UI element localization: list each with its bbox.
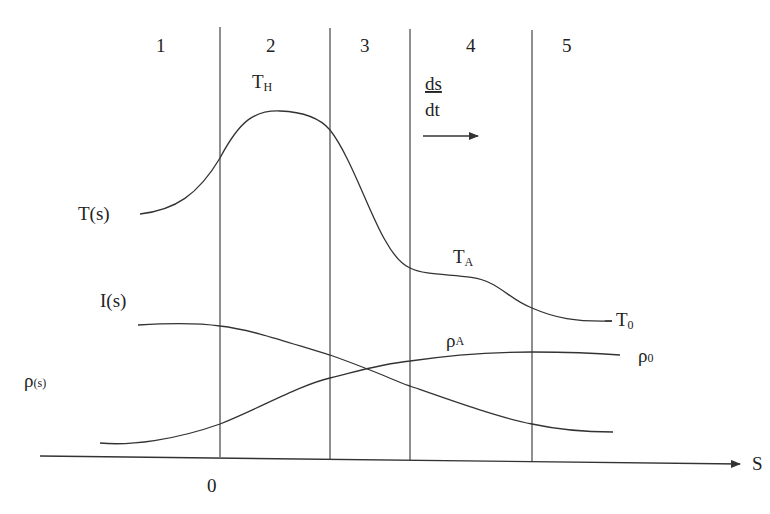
temperature-label: T(s) — [78, 203, 110, 225]
intensity-curve — [138, 324, 613, 432]
rate-numerator: ds — [425, 73, 442, 94]
ambient-density-label: ρ0 — [638, 345, 653, 366]
origin-label: 0 — [207, 475, 217, 496]
zone-label-2: 2 — [266, 35, 276, 56]
zone-label-3: 3 — [360, 35, 370, 56]
density-mid-label: ρA — [446, 330, 464, 351]
rate-denominator: dt — [425, 99, 441, 120]
ambient-temperature-label: T0 — [616, 309, 634, 332]
combustion-profile-diagram: 1 2 3 4 5 S 0 ds dt T(s) TH TA T0 I(s) ρ… — [0, 0, 770, 514]
zone-label-1: 1 — [156, 35, 166, 56]
s-axis — [40, 456, 740, 464]
plateau-temperature-label: TA — [453, 246, 474, 269]
zone-label-5: 5 — [562, 35, 572, 56]
s-axis-label: S — [752, 453, 763, 474]
rate-annotation: ds dt — [423, 73, 478, 136]
peak-temperature-label: TH — [252, 71, 273, 94]
zone-label-4: 4 — [466, 35, 476, 56]
temperature-curve — [140, 111, 612, 321]
density-label: ρ(s) — [24, 370, 46, 391]
intensity-label: I(s) — [100, 290, 126, 312]
